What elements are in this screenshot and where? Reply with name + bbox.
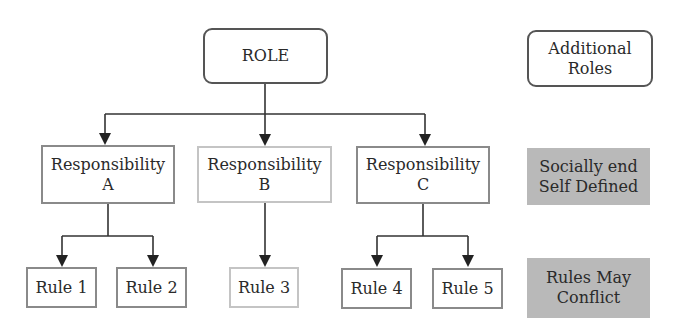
note-line-2: Conflict	[557, 288, 620, 308]
additional-roles-note: Additional Roles	[527, 30, 653, 87]
arrowhead-icon	[371, 255, 383, 267]
responsibility-a-node: Responsibility A	[41, 145, 175, 204]
rule-4-node: Rule 4	[341, 268, 412, 309]
socially-self-defined-note: Socially end Self Defined	[527, 148, 650, 205]
rule-label: Rule 5	[441, 279, 493, 299]
rule-5-node: Rule 5	[432, 268, 503, 309]
note-line-1: Socially end	[539, 157, 638, 177]
rule-label: Rule 1	[35, 278, 87, 298]
role-node: ROLE	[203, 28, 328, 84]
rule-label: Rule 4	[350, 279, 402, 299]
responsibility-c-node: Responsibility C	[356, 146, 490, 204]
arrowhead-icon	[99, 133, 111, 145]
arrowhead-icon	[259, 255, 271, 267]
rule-label: Rule 3	[238, 278, 290, 298]
note-line-2: Roles	[568, 59, 612, 79]
responsibility-label: Responsibility	[51, 155, 165, 175]
arrowhead-icon	[462, 255, 474, 267]
note-line-2: Self Defined	[539, 177, 639, 197]
responsibility-label: Responsibility	[366, 155, 480, 175]
role-label: ROLE	[242, 46, 289, 66]
rule-2-node: Rule 2	[116, 267, 187, 308]
rule-3-node: Rule 3	[229, 267, 299, 308]
rule-label: Rule 2	[125, 278, 177, 298]
responsibility-b-node: Responsibility B	[197, 146, 332, 203]
responsibility-letter: B	[259, 175, 271, 195]
note-line-1: Additional	[548, 39, 631, 59]
arrowhead-icon	[419, 134, 431, 146]
arrowhead-icon	[259, 134, 271, 146]
responsibility-letter: C	[417, 175, 429, 195]
responsibility-letter: A	[102, 175, 114, 195]
responsibility-label: Responsibility	[207, 155, 321, 175]
note-line-1: Rules May	[546, 268, 631, 288]
arrowhead-icon	[56, 255, 68, 267]
arrowhead-icon	[147, 255, 159, 267]
rule-1-node: Rule 1	[26, 267, 97, 308]
rules-may-conflict-note: Rules May Conflict	[527, 258, 650, 318]
